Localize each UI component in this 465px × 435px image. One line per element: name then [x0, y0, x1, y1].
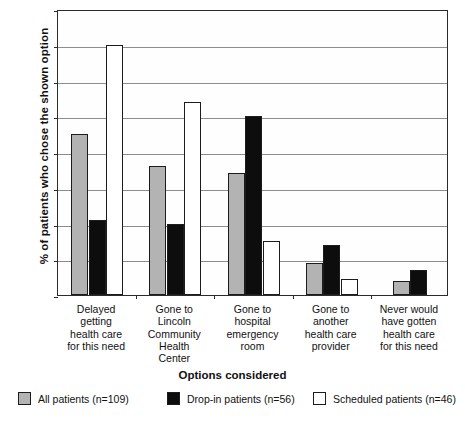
- bar: [245, 116, 262, 295]
- y-axis-tick-mark: [54, 297, 58, 298]
- x-axis-title: Options considered: [0, 369, 465, 381]
- category-label-line: another: [292, 315, 370, 327]
- chart-legend: All patients (n=109)Drop-in patients (n=…: [8, 392, 463, 414]
- category-label-line: Health: [135, 340, 213, 352]
- y-axis-title: % of patients who chose the shown option: [38, 16, 50, 276]
- bar: [410, 270, 427, 295]
- legend-item: Scheduled patients (n=46): [313, 392, 456, 405]
- x-axis-category-label: Delayedgettinghealth carefor this need: [57, 303, 135, 352]
- bar: [263, 241, 280, 295]
- category-label-line: for this need: [57, 340, 135, 352]
- x-axis-tick-mark: [371, 295, 372, 299]
- bar: [184, 102, 201, 295]
- category-label-line: room: [213, 340, 291, 352]
- category-label-line: Gone to: [135, 303, 213, 315]
- category-label-line: have gotten: [370, 315, 448, 327]
- category-label-line: health care: [292, 328, 370, 340]
- category-label-line: for this need: [370, 340, 448, 352]
- category-label-line: Gone to: [292, 303, 370, 315]
- bar: [323, 245, 340, 295]
- y-axis-tick-mark: [54, 47, 58, 48]
- category-label-line: Lincoln: [135, 315, 213, 327]
- legend-swatch: [18, 392, 31, 405]
- figure-caption: [6, 424, 446, 435]
- category-label-line: Never would: [370, 303, 448, 315]
- category-label-line: getting: [57, 315, 135, 327]
- legend-swatch: [167, 392, 180, 405]
- category-label-line: health care: [370, 328, 448, 340]
- legend-item: All patients (n=109): [18, 392, 129, 405]
- bar: [306, 263, 323, 295]
- y-axis-tick-mark: [54, 154, 58, 155]
- y-axis-tick-mark: [54, 261, 58, 262]
- category-label-line: provider: [292, 340, 370, 352]
- bar: [106, 45, 123, 295]
- x-axis-tick-mark: [293, 295, 294, 299]
- category-label-line: Delayed: [57, 303, 135, 315]
- y-axis-tick-mark: [54, 118, 58, 119]
- y-axis-tick-mark: [54, 11, 58, 12]
- legend-label: Scheduled patients (n=46): [333, 393, 456, 405]
- plot-area: [57, 10, 448, 296]
- x-axis-category-label: Gone tohospitalemergencyroom: [213, 303, 291, 352]
- legend-item: Drop-in patients (n=56): [167, 392, 295, 405]
- category-label-line: health care: [57, 328, 135, 340]
- bar: [393, 281, 410, 295]
- category-label-line: hospital: [213, 315, 291, 327]
- legend-label: All patients (n=109): [38, 393, 129, 405]
- legend-label: Drop-in patients (n=56): [187, 393, 295, 405]
- x-axis-category-label: Gone toLincolnCommunityHealthCenter: [135, 303, 213, 364]
- x-axis-category-label: Gone toanotherhealth careprovider: [292, 303, 370, 352]
- y-axis-tick-mark: [54, 190, 58, 191]
- bar: [228, 173, 245, 295]
- bar: [71, 134, 88, 295]
- bar: [167, 224, 184, 296]
- category-label-line: Center: [135, 352, 213, 364]
- x-axis-category-label: Never wouldhave gottenhealth carefor thi…: [370, 303, 448, 352]
- category-label-line: Gone to: [213, 303, 291, 315]
- figure-bar-chart: % of patients who chose the shown option…: [0, 0, 465, 435]
- y-axis-tick-mark: [54, 83, 58, 84]
- category-label-line: emergency: [213, 328, 291, 340]
- bar: [89, 220, 106, 295]
- x-axis-tick-mark: [136, 295, 137, 299]
- legend-swatch: [313, 392, 326, 405]
- category-label-line: Community: [135, 328, 213, 340]
- y-axis-tick-mark: [54, 226, 58, 227]
- bar: [149, 166, 166, 295]
- bar: [341, 279, 358, 295]
- x-axis-tick-mark: [214, 295, 215, 299]
